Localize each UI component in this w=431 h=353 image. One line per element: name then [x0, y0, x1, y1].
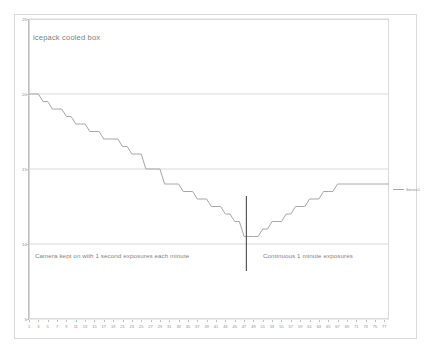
y-axis-tick-label: 25 — [15, 17, 27, 22]
x-axis-tick-mark — [38, 320, 39, 322]
x-axis-tick-mark — [216, 320, 217, 322]
x-axis-tick-mark — [263, 320, 264, 322]
x-axis-tick-mark — [141, 320, 142, 322]
plot-area — [29, 19, 389, 319]
x-axis-tick-mark — [310, 320, 311, 322]
x-axis-tick-mark — [197, 320, 198, 322]
y-axis-tick-label: 20 — [15, 92, 27, 97]
vertical-divider-marker — [29, 19, 389, 319]
x-axis-tick-mark — [244, 320, 245, 322]
chart-legend: Series1 — [393, 187, 420, 192]
x-axis-tick-mark — [160, 320, 161, 322]
x-axis-tick-mark — [384, 320, 385, 322]
x-axis-tick-mark — [225, 320, 226, 322]
x-axis-tick-mark — [347, 320, 348, 322]
x-axis-tick-mark — [338, 320, 339, 322]
x-axis-tick-mark — [319, 320, 320, 322]
x-axis-tick-mark — [113, 320, 114, 322]
y-axis-tick-label: 5 — [15, 317, 27, 322]
x-axis-tick-mark — [104, 320, 105, 322]
legend-line-swatch — [393, 189, 404, 190]
x-axis-tick-mark — [375, 320, 376, 322]
x-axis-tick-mark — [179, 320, 180, 322]
x-axis-tick-mark — [253, 320, 254, 322]
legend-label-series1: Series1 — [406, 187, 420, 192]
x-axis-tick-mark — [169, 320, 170, 322]
x-axis-tick-mark — [123, 320, 124, 322]
annotation-continuous-exposures: Continuous 1 minute exposures — [263, 252, 353, 259]
x-axis-tick-mark — [188, 320, 189, 322]
x-axis-tick-mark — [57, 320, 58, 322]
x-axis-tick-mark — [76, 320, 77, 322]
x-axis-tick-mark — [48, 320, 49, 322]
x-axis-tick-mark — [207, 320, 208, 322]
x-axis-tick-mark — [328, 320, 329, 322]
annotation-camera-exposures: Camera kept on with 1 second exposures e… — [35, 252, 189, 259]
y-axis-line — [28, 19, 29, 319]
x-axis-tick-mark — [235, 320, 236, 322]
y-axis-tick-label: 10 — [15, 242, 27, 247]
x-axis-tick-mark — [29, 320, 30, 322]
y-axis-tick-label: 15 — [15, 167, 27, 172]
x-axis-tick-mark — [272, 320, 273, 322]
x-axis-tick-mark — [281, 320, 282, 322]
x-axis-tick-mark — [66, 320, 67, 322]
chart-container: icepack cooled box Camera kept on with 1… — [14, 14, 417, 339]
x-axis-tick-mark — [300, 320, 301, 322]
x-axis-tick-mark — [151, 320, 152, 322]
x-axis-tick-mark — [94, 320, 95, 322]
x-axis-tick-mark — [85, 320, 86, 322]
x-axis-tick-mark — [132, 320, 133, 322]
x-axis-tick-mark — [356, 320, 357, 322]
x-axis-tick-label: 77 — [379, 324, 389, 329]
x-axis-tick-mark — [291, 320, 292, 322]
x-axis-tick-mark — [366, 320, 367, 322]
